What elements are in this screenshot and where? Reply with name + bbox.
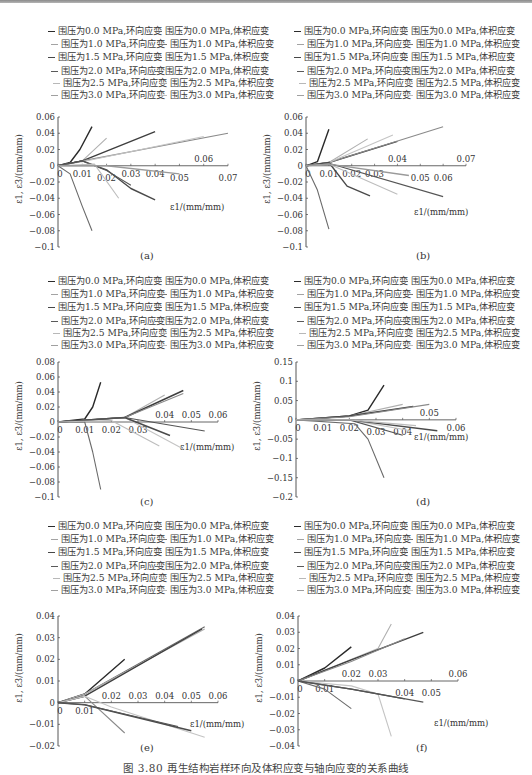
legend-item: 围压为1.5 MPa,环向应变 (48, 51, 162, 63)
x-tick-label: 0.04 (155, 410, 174, 420)
x-tick-label: 0 (57, 706, 62, 716)
legend-item: 围压为1.0 MPa,体积应变 (406, 38, 520, 50)
legend-label: 围压为1.5 MPa,环向应变 (58, 301, 162, 312)
legend-line-swatch (294, 307, 301, 308)
legend-label: 围压为3.0 MPa,体积应变 (416, 584, 520, 595)
x-tick-label: 0.05 (182, 410, 201, 420)
legend-label: 围压为1.5 MPa,体积应变 (165, 51, 269, 62)
legend-label: 围压为2.5 MPa,环向应变 (309, 327, 413, 338)
legend-line-swatch (53, 83, 60, 84)
y-tick-label: 0.06 (36, 112, 55, 122)
x-tick-label: 0.05 (182, 691, 201, 701)
x-tick-label: 0.01 (313, 423, 332, 433)
legend-item: 围压为3.0 MPa,环向应变 (51, 584, 165, 596)
legend-item: 围压为3.0 MPa,体积应变 (406, 89, 520, 101)
data-series-line (296, 404, 403, 420)
y-tick-label: 0.04 (36, 611, 55, 621)
legend-label: 围压为2.0 MPa,体积应变 (165, 65, 269, 76)
legend-item: 围压为0.0 MPa,环向应变 (48, 25, 162, 37)
legend-line-swatch (406, 539, 413, 540)
legend-line-swatch (51, 95, 58, 96)
legend-item: 围压为1.0 MPa,环向应变 (51, 288, 165, 300)
legend-line-swatch (297, 539, 304, 540)
legend-item: 围压为0.0 MPa,体积应变 (401, 25, 515, 37)
y-tick-label: −0.06 (277, 210, 303, 220)
legend-label: 围压为2.5 MPa,体积应变 (416, 572, 520, 583)
legend-line-swatch (160, 83, 167, 84)
y-tick-label: −0.08 (29, 226, 55, 236)
legend-line-swatch (155, 57, 162, 58)
y-tick-label: −0.02 (277, 177, 303, 187)
legend-line-swatch (160, 95, 167, 96)
data-series-line (58, 382, 101, 422)
legend-line-swatch (297, 345, 304, 346)
legend-line-swatch (297, 590, 304, 591)
legend-label: 围压为3.0 MPa,环向应变 (61, 89, 165, 100)
legend-label: 围压为2.5 MPa,环向应变 (63, 572, 167, 583)
legend-item: 围压为1.0 MPa,体积应变 (160, 533, 274, 545)
legend-label: 围压为2.0 MPa,环向应变 (307, 560, 411, 571)
legend-label: 围压为2.5 MPa,体积应变 (170, 572, 274, 583)
y-tick-label: 0.02 (276, 644, 295, 654)
legend-label: 围压为2.0 MPa,环向应变 (307, 65, 411, 76)
legend-line-swatch (401, 71, 408, 72)
x-tick-label: 0.06 (194, 154, 213, 164)
legend-item: 围压为2.0 MPa,体积应变 (401, 560, 515, 572)
legend-line-swatch (160, 590, 167, 591)
panel-sublabel: (d) (416, 496, 430, 507)
legend-label: 围压为2.0 MPa,体积应变 (411, 65, 515, 76)
x-tick-label: 0.03 (129, 425, 148, 435)
legend-line-swatch (401, 321, 408, 322)
legend-line-swatch (406, 345, 413, 346)
legend-item: 围压为2.5 MPa,体积应变 (160, 572, 274, 584)
legend-item: 围压为1.5 MPa,环向应变 (294, 301, 408, 313)
legend-line-swatch (160, 333, 167, 334)
legend-item: 围压为2.0 MPa,体积应变 (155, 315, 269, 327)
legend-label: 围压为2.0 MPa,环向应变 (61, 560, 165, 571)
legend-line-swatch (51, 345, 58, 346)
legend-item: 围压为3.0 MPa,环向应变 (51, 89, 165, 101)
legend-label: 围压为0.0 MPa,体积应变 (411, 25, 515, 36)
legend-label: 围压为1.5 MPa,环向应变 (304, 301, 408, 312)
legend-line-swatch (53, 333, 60, 334)
legend-label: 围压为1.5 MPa,体积应变 (411, 51, 515, 62)
legend-item: 围压为3.0 MPa,体积应变 (160, 89, 274, 101)
legend-item: 围压为2.0 MPa,环向应变 (51, 65, 165, 77)
legend-line-swatch (297, 321, 304, 322)
x-axis-label: ε1/(mm/mm) (180, 442, 234, 452)
panel-sublabel: (c) (140, 496, 153, 507)
legend-label: 围压为0.0 MPa,环向应变 (58, 25, 162, 36)
legend-line-swatch (160, 294, 167, 295)
x-tick-label: 0.03 (369, 669, 388, 679)
y-tick-label: −0.04 (269, 741, 295, 751)
y-tick-label: −0.1 (282, 242, 303, 252)
legend-item: 围压为2.5 MPa,环向应变 (53, 572, 167, 584)
legend-label: 围压为0.0 MPa,环向应变 (304, 275, 408, 286)
data-series-line (298, 681, 391, 736)
legend-item: 围压为2.0 MPa,体积应变 (401, 315, 515, 327)
legend-line-swatch (294, 552, 301, 553)
y-tick-label: −0.03 (269, 725, 295, 735)
legend-item: 围压为0.0 MPa,环向应变 (48, 520, 162, 532)
legend-item: 围压为1.0 MPa,体积应变 (160, 38, 274, 50)
legend-line-swatch (401, 281, 408, 282)
legend-label: 围压为0.0 MPa,环向应变 (58, 275, 162, 286)
x-tick-label: 0.01 (75, 706, 94, 716)
x-tick-label: 0 (57, 425, 62, 435)
legend-label: 围压为2.0 MPa,环向应变 (61, 65, 165, 76)
legend-label: 围压为1.5 MPa,环向应变 (304, 546, 408, 557)
legend-label: 围压为2.5 MPa,体积应变 (170, 77, 274, 88)
legend-line-swatch (406, 590, 413, 591)
legend-item: 围压为1.0 MPa,体积应变 (406, 288, 520, 300)
x-tick-label: 0.01 (73, 169, 92, 179)
panel-sublabel: (f) (416, 742, 428, 753)
legend-label: 围压为1.5 MPa,体积应变 (165, 301, 269, 312)
legend-line-swatch (297, 71, 304, 72)
legend-line-swatch (155, 321, 162, 322)
y-tick-label: 0 (50, 161, 55, 171)
legend-line-swatch (155, 31, 162, 32)
legend-item: 围压为1.5 MPa,环向应变 (294, 51, 408, 63)
y-axis-label: ε1, ε3/(mm/mm) (254, 633, 264, 703)
legend-label: 围压为1.0 MPa,体积应变 (416, 533, 520, 544)
x-tick-label: 0.03 (129, 691, 148, 701)
